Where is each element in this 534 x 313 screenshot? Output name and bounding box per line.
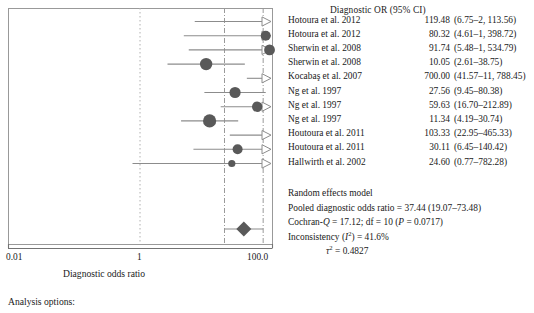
confidence-interval: (6.45–140.42)	[454, 142, 507, 152]
table-row: Houtoura et al. 201130.11(6.45–140.42)	[288, 142, 534, 156]
study-label: Ng et al. 1997	[288, 114, 341, 124]
odds-ratio-value: 59.63	[410, 100, 450, 110]
summary-cochran-q: Cochran-Q = 17.12; df = 10 (P = 0.0717)	[288, 215, 534, 230]
odds-ratio-value: 27.56	[410, 86, 450, 96]
confidence-interval: (0.77–782.28)	[454, 157, 507, 167]
confidence-interval: (4.61–1, 398.72)	[454, 29, 517, 39]
table-row: Hallwirth et al. 200224.60(0.77–782.28)	[288, 157, 534, 171]
study-label: Sherwin et al. 2008	[288, 57, 361, 67]
pooled-diamond	[225, 222, 264, 237]
confidence-interval: (4.19–30.74)	[454, 114, 502, 124]
analysis-options-label: Analysis options:	[8, 296, 75, 307]
table-row: Hotoura et al. 201280.32(4.61–1, 398.72)	[288, 29, 534, 43]
odds-ratio-value: 80.32	[410, 29, 450, 39]
axis-tick-min: 0.01	[6, 252, 22, 262]
study-label: Hotoura et al. 2012	[288, 29, 360, 39]
forest-plot-svg	[0, 0, 290, 285]
odds-ratio-value: 11.34	[410, 114, 450, 124]
odds-ratio-value: 103.33	[410, 128, 450, 138]
confidence-interval: (5.48–1, 534.79)	[454, 43, 517, 53]
table-row: Ng et al. 199727.56(9.45–80.38)	[288, 86, 534, 100]
table-column-header: Diagnostic OR (95% CI)	[330, 5, 426, 15]
forest-plot-area: 0.01 1 100.0 Diagnostic odds ratio	[0, 0, 290, 285]
odds-ratio-value: 700.00	[410, 71, 450, 81]
study-label: Hallwirth et al. 2002	[288, 157, 366, 167]
table-row: Kocabaş et al. 2007700.00(41.57–11, 788.…	[288, 71, 534, 85]
summary-statistics: Random effects model Pooled diagnostic o…	[288, 186, 534, 259]
study-label: Kocabaş et al. 2007	[288, 71, 362, 81]
odds-ratio-value: 24.60	[410, 157, 450, 167]
study-label: Ng et al. 1997	[288, 100, 341, 110]
summary-model: Random effects model	[288, 186, 534, 201]
study-label: Hotoura et al. 2012	[288, 15, 360, 25]
odds-ratio-value: 119.48	[410, 15, 450, 25]
table-row: Hotoura et al. 2012119.48(6.75–2, 113.56…	[288, 15, 534, 29]
confidence-interval: (16.70–212.89)	[454, 100, 512, 110]
table-row: Houtoura et al. 2011103.33(22.95–465.33)	[288, 128, 534, 142]
confidence-interval: (9.45–80.38)	[454, 86, 502, 96]
table-row: Sherwin et al. 200891.74(5.48–1, 534.79)	[288, 43, 534, 57]
study-label: Houtoura et al. 2011	[288, 142, 365, 152]
reference-lines	[140, 8, 263, 244]
confidence-interval: (22.95–465.33)	[454, 128, 512, 138]
confidence-interval: (41.57–11, 788.45)	[454, 71, 526, 81]
study-markers	[133, 17, 275, 168]
summary-pooled-or: Pooled diagnostic odds ratio = 37.44 (19…	[288, 201, 534, 216]
forest-plot-figure: 0.01 1 100.0 Diagnostic odds ratio Diagn…	[0, 0, 534, 313]
study-label: Ng et al. 1997	[288, 86, 341, 96]
odds-ratio-value: 91.74	[410, 43, 450, 53]
table-row: Ng et al. 199711.34(4.19–30.74)	[288, 114, 534, 128]
table-row: Sherwin et al. 200810.05(2.61–38.75)	[288, 57, 534, 71]
x-axis-title: Diagnostic odds ratio	[63, 268, 145, 279]
study-label: Sherwin et al. 2008	[288, 43, 361, 53]
odds-ratio-value: 30.11	[410, 142, 450, 152]
summary-inconsistency: Inconsistency (I2) = 41.6%	[288, 230, 534, 245]
table-row: Ng et al. 199759.63(16.70–212.89)	[288, 100, 534, 114]
confidence-interval: (2.61–38.75)	[454, 57, 502, 67]
summary-tau-squared: τ2 = 0.4827	[288, 244, 534, 259]
axis-tick-null: 1	[137, 252, 142, 262]
study-label: Houtoura et al. 2011	[288, 128, 365, 138]
odds-ratio-value: 10.05	[410, 57, 450, 67]
axis-tick-max: 100.0	[247, 252, 268, 262]
confidence-interval: (6.75–2, 113.56)	[454, 15, 516, 25]
